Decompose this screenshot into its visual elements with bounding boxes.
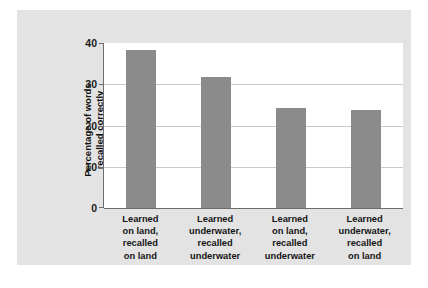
x-category-label-4: Learned underwater, recalled on land [327,213,402,269]
x-category-label-1-line-3: recalled [104,237,177,249]
x-category-label-2-line-4: underwater [179,250,252,262]
y-tick-label-20: 20 [71,121,97,132]
x-category-label-3-line-3: recalled [254,237,327,249]
x-category-label-4-line-3: recalled [328,237,401,249]
x-category-label-2-line-3: recalled [179,237,252,249]
y-tick-label-0: 0 [71,203,97,214]
bar-learned-underwater-recalled-on-land [351,110,381,208]
tick-mark-40 [99,43,104,44]
plot-area [103,43,403,208]
y-tick-label-10: 10 [71,162,97,173]
x-category-label-1-line-2: on land, [104,225,177,237]
y-tick-label-40: 40 [71,38,97,49]
x-category-label-2-line-2: underwater, [179,225,252,237]
figure: Percentage of words recalled correctly 4… [0,0,428,288]
bar-learned-on-land-recalled-on-land [126,50,156,208]
y-tick-label-30: 30 [71,79,97,90]
tick-mark-20 [99,126,104,127]
y-axis-tick-labels: 40 30 20 10 0 [69,43,97,208]
x-category-label-3-line-4: underwater [254,250,327,262]
bar-learned-underwater-recalled-underwater [201,77,231,208]
x-category-label-4-line-2: underwater, [328,225,401,237]
tick-mark-30 [99,84,104,85]
x-category-label-3-line-2: on land, [254,225,327,237]
x-category-label-4-line-4: on land [328,250,401,262]
bar-learned-on-land-recalled-underwater [276,108,306,208]
tick-mark-10 [99,167,104,168]
x-category-label-3-line-1: Learned [254,213,327,225]
x-category-label-1-line-4: on land [104,250,177,262]
x-category-label-3: Learned on land, recalled underwater [253,213,328,269]
chart-panel: Percentage of words recalled correctly 4… [17,10,411,265]
x-category-label-2-line-1: Learned [179,213,252,225]
x-category-label-1-line-1: Learned [104,213,177,225]
x-axis-category-labels: Learned on land, recalled on land Learne… [103,213,402,269]
x-category-label-1: Learned on land, recalled on land [103,213,178,269]
x-category-label-2: Learned underwater, recalled underwater [178,213,253,269]
x-category-label-4-line-1: Learned [328,213,401,225]
